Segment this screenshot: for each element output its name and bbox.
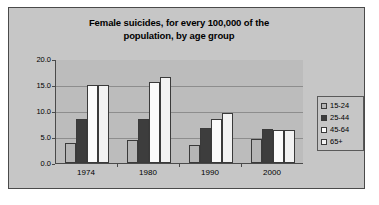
legend-label: 15-24 <box>330 101 349 110</box>
legend-label: 25-44 <box>330 113 349 122</box>
plot-area <box>55 60 303 164</box>
y-axis-tick-label: 15.0 <box>11 82 51 90</box>
bar[interactable] <box>87 85 98 163</box>
bar[interactable] <box>98 85 109 163</box>
y-axis-tick-label: 10.0 <box>11 108 51 116</box>
bar-group <box>242 60 304 163</box>
bar[interactable] <box>76 119 87 163</box>
x-axis-tick <box>241 164 242 167</box>
legend-label: 45-64 <box>330 125 349 134</box>
bar[interactable] <box>189 145 200 163</box>
bar[interactable] <box>273 130 284 163</box>
y-axis-tick <box>52 164 55 165</box>
legend-swatch-icon <box>321 127 327 133</box>
x-axis-tick-label: 1990 <box>182 168 238 177</box>
legend-item[interactable]: 25-44 <box>321 112 360 123</box>
legend-item[interactable]: 15-24 <box>321 100 360 111</box>
legend-swatch-icon <box>321 115 327 121</box>
bar[interactable] <box>127 140 138 163</box>
legend-item[interactable]: 45-64 <box>321 124 360 135</box>
bar[interactable] <box>262 129 273 163</box>
chart-title-line-2: population, by age group <box>29 29 329 42</box>
bar-group <box>180 60 242 163</box>
chart-title: Female suicides, for every 100,000 of th… <box>29 16 329 42</box>
legend-swatch-icon <box>321 139 327 145</box>
chart-title-line-1: Female suicides, for every 100,000 of th… <box>29 16 329 29</box>
bar[interactable] <box>284 130 295 163</box>
x-axis-tick <box>179 164 180 167</box>
bar[interactable] <box>211 119 222 163</box>
x-axis-tick <box>117 164 118 167</box>
bar[interactable] <box>251 139 262 163</box>
bar[interactable] <box>65 143 76 163</box>
x-axis: 1974198019902000 <box>55 168 303 182</box>
chart-legend: 15-2425-4445-6465+ <box>317 96 364 151</box>
chart-container: Female suicides, for every 100,000 of th… <box>8 7 365 189</box>
x-axis-tick-label: 2000 <box>244 168 300 177</box>
bar[interactable] <box>138 119 149 163</box>
legend-label: 65+ <box>330 137 343 146</box>
y-axis-tick-label: 20.0 <box>11 56 51 64</box>
bar[interactable] <box>200 128 211 163</box>
legend-item[interactable]: 65+ <box>321 136 360 147</box>
bar-group <box>118 60 180 163</box>
y-axis-tick-label: 0.0 <box>11 160 51 168</box>
bar[interactable] <box>222 113 233 163</box>
y-axis-tick-label: 5.0 <box>11 134 51 142</box>
legend-swatch-icon <box>321 103 327 109</box>
bar-group <box>56 60 118 163</box>
x-axis-tick-label: 1980 <box>120 168 176 177</box>
x-axis-tick-label: 1974 <box>58 168 114 177</box>
screenshot-root: Female suicides, for every 100,000 of th… <box>0 0 379 205</box>
bar[interactable] <box>160 77 171 163</box>
bar[interactable] <box>149 82 160 163</box>
y-axis: 0.05.010.015.020.0 <box>9 54 51 170</box>
